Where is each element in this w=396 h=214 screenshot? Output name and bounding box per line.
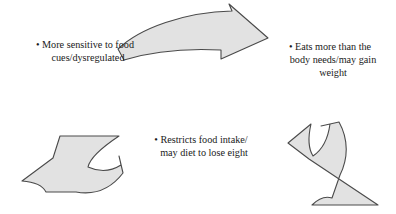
cycle-arrows-graphic	[0, 0, 396, 214]
label-eats-more-than-body-needs: • Eats more than the body needs/may gain…	[272, 40, 394, 80]
label-restricts-food-intake: • Restricts food intake/ may diet to los…	[146, 133, 262, 159]
cycle-diagram: • More sensitive to food cues/dysregulat…	[0, 0, 396, 214]
label-more-sensitive-to-food-cues: • More sensitive to food cues/dysregulat…	[14, 38, 162, 64]
arrow-bottom-left-icon	[22, 136, 123, 193]
arrow-bottom-left-lower-icon	[288, 122, 378, 205]
